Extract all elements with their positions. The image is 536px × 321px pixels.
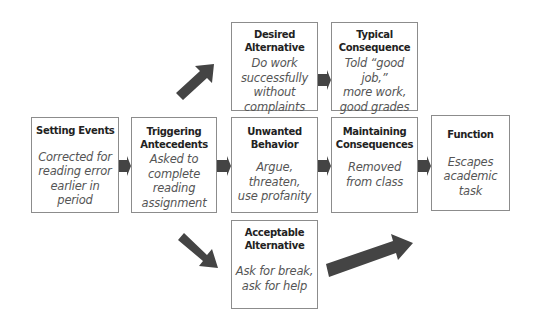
arrow-triggering-to-unwanted [216,156,231,176]
acceptable-alternative-title: Acceptable Alternative [232,227,317,252]
typical-consequence-body: Told “good job,” more work, good grades [332,56,417,114]
setting-events-title: Setting Events [32,125,118,138]
function-title: Function [432,129,509,142]
arrow-acceptable-to-function [326,234,413,277]
unwanted-behavior-title: Unwanted Behavior [232,126,317,151]
triggering-antecedents-box: Triggering Antecedents Asked to complete… [131,117,217,213]
typical-consequence-title: Typical Consequence [332,29,417,54]
triggering-antecedents-body: Asked to complete reading assignment [132,152,216,210]
acceptable-alternative-box: Acceptable Alternative Ask for break, as… [231,220,318,309]
typical-consequence-box: Typical Consequence Told “good job,” mor… [331,22,418,111]
desired-alternative-title: Desired Alternative [232,29,317,54]
function-box: Function Escapes academic task [431,115,510,211]
unwanted-behavior-body: Argue, threaten, use profanity [232,160,317,204]
desired-alternative-box: Desired Alternative Do work successfully… [231,22,318,111]
arrow-up-right [176,64,214,100]
function-body: Escapes academic task [432,155,509,199]
arrow-desired-to-typical [317,70,331,90]
arrow-down-right [178,233,218,268]
triggering-antecedents-title: Triggering Antecedents [132,126,216,151]
maintaining-consequences-body: Removed from class [332,160,417,189]
desired-alternative-body: Do work successfully without complaints [232,56,317,114]
arrow-unwanted-to-maintaining [317,156,331,176]
maintaining-consequences-title: Maintaining Consequences [332,126,417,151]
arrow-setting-to-triggering [118,156,131,176]
unwanted-behavior-box: Unwanted Behavior Argue, threaten, use p… [231,117,318,213]
setting-events-box: Setting Events Corrected for reading err… [31,117,119,213]
acceptable-alternative-body: Ask for break, ask for help [232,264,317,293]
maintaining-consequences-box: Maintaining Consequences Removed from cl… [331,117,418,213]
arrow-maintaining-to-function [417,156,431,176]
setting-events-body: Corrected for reading error earlier in p… [32,150,118,208]
